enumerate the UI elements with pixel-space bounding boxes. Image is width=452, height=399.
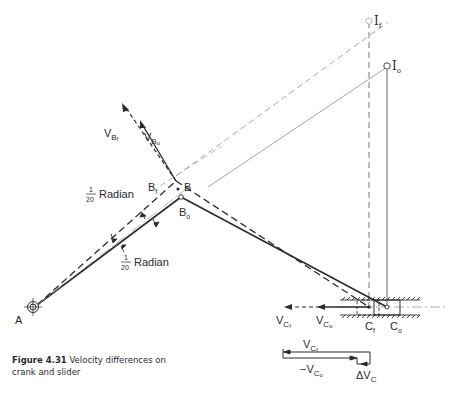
label-a: A <box>15 314 23 326</box>
label-bf: Bf <box>148 181 157 195</box>
label-vco: VCo <box>316 314 333 329</box>
label-vbo: VBo <box>144 131 161 146</box>
svg-text:1: 1 <box>124 254 128 261</box>
angle-label-lower: 1 20 Radian <box>121 254 169 271</box>
svg-text:Radian: Radian <box>99 188 134 200</box>
extension-line-upper <box>160 146 222 186</box>
svg-text:1: 1 <box>89 186 93 193</box>
crank-slider-velocity-diagram: If Io VBf VBo Bf B Bo 1 20 Radian 1 20 R… <box>0 0 452 399</box>
label-sum-neg-vco: −VCo <box>300 363 324 378</box>
point-co <box>385 305 389 309</box>
label-if: If <box>374 14 383 30</box>
pivot-a <box>24 298 42 316</box>
label-vcf: VCf <box>276 314 291 329</box>
arrowhead-vbo <box>140 120 146 128</box>
svg-text:20: 20 <box>121 264 129 271</box>
label-delta-vc: ΔVC <box>356 369 377 384</box>
vector-sum-diagram <box>283 349 370 366</box>
label-bo: Bo <box>179 206 190 220</box>
angle-mark-upper <box>140 211 159 227</box>
line-bf-to-if <box>176 22 388 176</box>
label-b: B <box>184 181 191 193</box>
label-io: Io <box>392 59 401 75</box>
point-b <box>176 187 179 190</box>
point-bo <box>179 195 184 200</box>
label-co: Co <box>390 320 402 334</box>
rod-bf-cf <box>176 181 369 307</box>
label-cf: Cf <box>365 320 375 334</box>
figure-number: Figure 4.31 <box>12 355 67 365</box>
crank-mid-line <box>37 186 190 305</box>
instant-center-if <box>366 18 372 24</box>
svg-text:20: 20 <box>86 196 94 203</box>
figure-caption: Figure 4.31 Velocity differences on cran… <box>12 354 182 378</box>
crank-a-bo <box>37 197 181 305</box>
svg-text:Radian: Radian <box>134 256 169 268</box>
line-bo-to-io <box>208 67 387 187</box>
instant-center-io <box>384 63 390 69</box>
arrowhead-vcf <box>284 304 292 310</box>
angle-label-upper: 1 20 Radian <box>86 186 134 203</box>
label-sum-vcf: VCf <box>303 338 318 353</box>
label-vbf: VBf <box>104 127 119 142</box>
rod-bo-co <box>181 197 387 307</box>
